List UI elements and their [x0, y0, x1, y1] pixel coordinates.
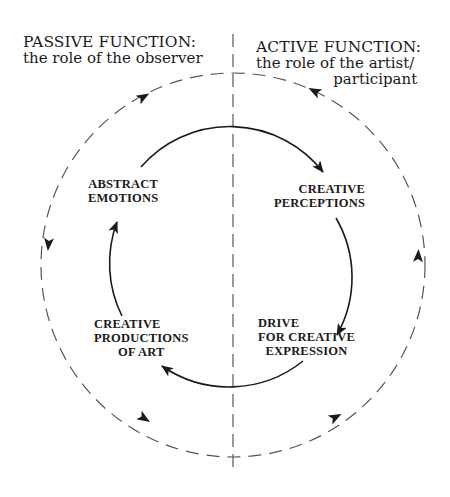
arrow-icon — [136, 411, 152, 426]
node-creative-productions-of-art: CREATIVE PRODUCTIONS OF ART — [94, 317, 189, 359]
node-label-line: EMOTIONS — [88, 191, 158, 205]
node-label-line: CREATIVE — [274, 182, 365, 196]
arrow-icon — [328, 409, 344, 424]
passive-function-heading: PASSIVE FUNCTION: the role of the observ… — [23, 34, 203, 66]
active-function-subtitle-line2: participant — [256, 71, 421, 87]
active-function-title: ACTIVE FUNCTION: — [256, 39, 421, 55]
passive-function-title: PASSIVE FUNCTION: — [23, 34, 203, 50]
active-function-subtitle-line1: the role of the artist/ — [256, 55, 421, 71]
node-label-line: PERCEPTIONS — [274, 196, 365, 210]
passive-function-subtitle: the role of the observer — [23, 50, 203, 66]
arrow-productions-to-abstract — [110, 222, 122, 316]
diagram-canvas: PASSIVE FUNCTION: the role of the observ… — [0, 0, 450, 497]
node-abstract-emotions: ABSTRACT EMOTIONS — [88, 177, 158, 205]
node-label-line: DRIVE — [258, 316, 355, 330]
node-label-line: PRODUCTIONS — [94, 331, 189, 345]
node-label-line: CREATIVE — [94, 317, 189, 331]
node-drive-for-creative-expression: DRIVE FOR CREATIVE EXPRESSION — [258, 316, 355, 358]
node-label-line: EXPRESSION — [258, 344, 355, 358]
node-label-line: FOR CREATIVE — [258, 330, 355, 344]
active-function-heading: ACTIVE FUNCTION: the role of the artist/… — [256, 39, 421, 87]
node-creative-perceptions: CREATIVE PERCEPTIONS — [274, 182, 365, 210]
node-label-line: OF ART — [94, 345, 189, 359]
arrow-icon — [43, 238, 54, 252]
arrow-icon — [413, 249, 423, 262]
node-label-line: ABSTRACT — [88, 177, 158, 191]
arrow-icon — [136, 89, 152, 104]
arrow-abstract-to-perceptions — [141, 127, 323, 172]
